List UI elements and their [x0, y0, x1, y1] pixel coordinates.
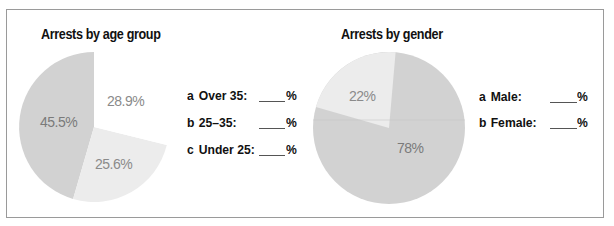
age-answer-c-unit: % — [286, 142, 297, 157]
age-question-b: b25–35: — [187, 115, 237, 130]
age-answer-a-blank[interactable] — [259, 101, 285, 102]
gender-label-22: 22% — [349, 88, 376, 104]
gender-question-b: bFemale: — [479, 115, 537, 130]
gender-answer-a-blank[interactable] — [550, 102, 577, 103]
age-label-28-9: 28.9% — [107, 93, 144, 109]
age-label-25-6: 25.6% — [95, 156, 132, 172]
age-question-a: aOver 35: — [187, 88, 247, 103]
age-question-c: cUnder 25: — [187, 142, 255, 157]
gender-question-a: aMale: — [479, 89, 522, 104]
age-label-45-5: 45.5% — [40, 114, 77, 130]
gender-answer-b-blank[interactable] — [550, 128, 577, 129]
gender-label-78: 78% — [397, 140, 424, 156]
age-answer-b-unit: % — [286, 115, 297, 130]
gender-answer-b-unit: % — [577, 115, 588, 130]
age-answer-b-blank[interactable] — [259, 128, 285, 129]
age-answer-c-blank[interactable] — [259, 155, 285, 156]
age-pie-chart: 28.9% 25.6% 45.5% — [0, 0, 200, 226]
age-answer-a-unit: % — [286, 88, 297, 103]
gender-pie-chart: 22% 78% — [300, 0, 480, 226]
gender-answer-a-unit: % — [577, 89, 588, 104]
